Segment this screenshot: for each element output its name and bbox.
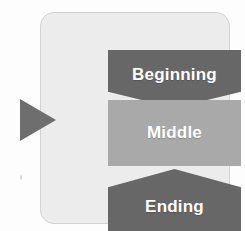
stage-middle[interactable]: Middle bbox=[108, 100, 241, 166]
stage-ending[interactable]: Ending bbox=[108, 169, 241, 231]
diagram-canvas: Beginning Middle Ending bbox=[0, 0, 245, 231]
stage-middle-label: Middle bbox=[147, 123, 202, 143]
stage-ending-label: Ending bbox=[145, 197, 204, 217]
diagram-panel: Beginning Middle Ending bbox=[40, 12, 230, 224]
scan-artifact bbox=[20, 175, 22, 180]
stage-beginning-label: Beginning bbox=[132, 65, 217, 85]
